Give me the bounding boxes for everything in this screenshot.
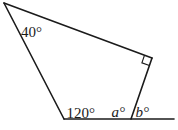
edge-top-left-to-bottom-left [4,3,64,119]
figure-svg: 40° 120° a° b° [0,0,178,130]
geometry-figure: 40° 120° a° b° [0,0,178,130]
angle-label-b: b° [136,104,150,120]
angle-label-40: 40° [21,24,42,40]
angle-label-120: 120° [67,105,96,121]
angle-label-a: a° [112,104,126,120]
